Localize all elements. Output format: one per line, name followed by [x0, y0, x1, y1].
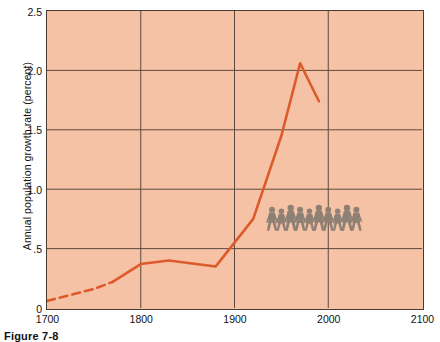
x-tick-label: 2100	[393, 313, 440, 325]
x-axis-ticks: 17001800190020002100	[46, 313, 424, 329]
data-series-lines	[47, 63, 319, 301]
y-tick-label: 2.0	[2, 65, 42, 77]
y-axis-ticks: 0.51.01.52.02.5	[0, 10, 42, 310]
plot-area	[46, 10, 424, 310]
gridlines	[47, 11, 422, 308]
walking-people-figures	[266, 205, 362, 231]
y-tick-label: .5	[2, 243, 42, 255]
y-tick-label: 1.0	[2, 184, 42, 196]
x-tick-label: 1800	[111, 313, 171, 325]
y-tick-label: 1.5	[2, 124, 42, 136]
y-tick-label: 2.5	[2, 6, 42, 18]
chart-svg	[47, 11, 422, 308]
x-tick-label: 1700	[18, 313, 78, 325]
x-tick-label: 1900	[205, 313, 265, 325]
figure-caption: Figure 7-8	[4, 330, 59, 342]
x-tick-label: 2000	[299, 313, 359, 325]
